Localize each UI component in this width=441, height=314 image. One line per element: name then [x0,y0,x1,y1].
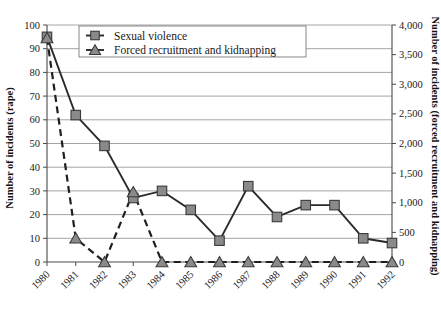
series-lines [47,37,392,262]
y-axis-left-tick-label: 80 [30,67,41,78]
data-point-marker-square [215,236,225,246]
x-axis-tick-label: 1988 [259,269,282,292]
data-point-marker-square [272,212,282,222]
x-axis-tick-label: 1987 [231,269,254,292]
series-line-2 [47,38,392,262]
legend: Sexual violenceForced recruitment and ki… [79,26,306,57]
y-axis-left: 0102030405060708090100 [24,20,47,268]
data-point-marker-square [244,181,254,191]
data-point-marker-square [71,110,81,120]
data-point-marker-square [359,234,369,244]
x-axis-tick-label: 1992 [374,269,397,292]
x-axis-tick-label: 1983 [116,269,139,292]
y-axis-left-tick-label: 10 [30,233,41,244]
y-axis-right-tick-label: 0 [399,257,404,268]
series-line-1 [47,37,392,243]
data-point-marker-square [91,31,100,40]
chart-container: 0102030405060708090100 05001,0001,5002,0… [0,0,441,314]
y-axis-right: 05001,0001,5002,0002,5003,0003,5004,000 [392,20,423,268]
data-point-marker-square [330,200,340,210]
y-axis-right-tick-label: 1,500 [399,168,423,179]
x-axis-tick-label: 1989 [288,269,311,292]
y-axis-right-tick-label: 500 [399,227,415,238]
data-point-marker-square [100,141,110,151]
y-axis-right-tick-label: 1,000 [399,197,423,208]
data-point-marker-square [387,238,397,248]
y-axis-left-tick-label: 30 [30,186,41,197]
y-axis-left-title: Number of incidents (rape) [4,87,16,209]
y-axis-right-tick-label: 3,000 [399,79,423,90]
x-axis-tick-label: 1980 [29,269,52,292]
x-axis-tick-label: 1981 [58,269,81,292]
data-point-marker-square [157,186,167,196]
y-axis-left-tick-label: 40 [30,162,41,173]
y-axis-right-tick-label: 2,500 [399,108,423,119]
x-axis: 1980198119821983198419851986198719881989… [29,262,397,291]
y-axis-left-tick-label: 100 [24,20,40,31]
legend-label: Sexual violence [114,30,187,42]
data-point-marker-square [301,200,311,210]
y-axis-left-tick-label: 90 [30,43,41,54]
y-axis-left-tick-label: 50 [30,138,41,149]
y-axis-right-title: Number of incidents (forced recruitment … [429,16,441,276]
y-axis-right-tick-label: 2,000 [399,138,423,149]
dual-axis-line-chart: 0102030405060708090100 05001,0001,5002,0… [0,0,441,314]
y-axis-left-tick-label: 70 [30,91,41,102]
x-axis-tick-label: 1984 [144,268,167,291]
x-axis-tick-label: 1982 [87,269,110,292]
legend-label: Forced recruitment and kidnapping [114,44,276,57]
data-point-marker-square [186,205,196,215]
y-axis-right-tick-label: 3,500 [399,49,423,60]
y-axis-left-tick-label: 0 [35,257,40,268]
series-markers [41,32,398,267]
x-axis-tick-label: 1990 [317,269,340,292]
x-axis-tick-label: 1986 [202,269,225,292]
y-axis-right-tick-label: 4,000 [399,20,423,31]
y-axis-left-tick-label: 60 [30,114,41,125]
y-axis-left-tick-label: 20 [30,209,41,220]
x-axis-tick-label: 1991 [346,269,369,292]
x-axis-tick-label: 1985 [173,269,196,292]
